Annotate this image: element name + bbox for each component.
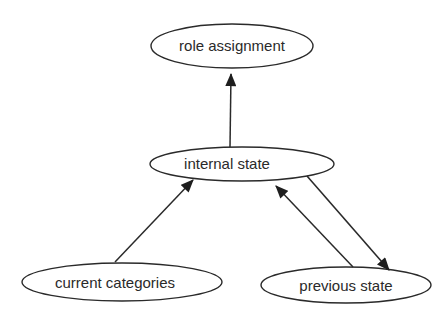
node-previous-state: previous state [261,267,431,303]
node-current-categories: current categories [22,263,222,301]
node-label-current-categories: current categories [55,274,175,291]
edge-previous-to-internal [276,186,353,267]
edge-current-to-internal [115,180,193,262]
node-label-previous-state: previous state [299,277,392,294]
edge-internal-to-previous [307,176,389,270]
diagram-canvas: role assignment internal state current c… [0,0,448,324]
edge-internal-to-role [230,74,231,147]
node-label-internal-state: internal state [184,155,270,172]
node-label-role-assignment: role assignment [179,37,286,54]
node-internal-state: internal state [150,147,334,181]
node-role-assignment: role assignment [151,24,313,68]
